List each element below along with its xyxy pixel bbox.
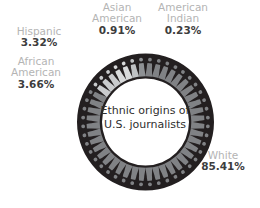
chart-center-title-line2: U.S. journalists — [86, 118, 204, 132]
slice-value-white: 85.41% — [190, 161, 256, 172]
chart-center-title-line1: Ethnic origins of — [86, 104, 204, 118]
slice-label-american-indian: American Indian 0.23% — [150, 2, 216, 36]
chart-canvas: Asian American 0.91% American Indian 0.2… — [0, 0, 260, 208]
slice-label-african-american: African American 3.66% — [0, 56, 72, 90]
slice-value-hispanic: 3.32% — [6, 37, 72, 48]
slice-value-asian-american: 0.91% — [86, 25, 148, 36]
slice-label-asian-american: Asian American 0.91% — [86, 2, 148, 36]
slice-label-american-indian-line2: Indian — [150, 13, 216, 24]
slice-label-african-american-line2: American — [0, 67, 72, 78]
slice-value-african-american: 3.66% — [0, 79, 72, 90]
slice-label-asian-american-line2: American — [86, 13, 148, 24]
slice-label-hispanic: Hispanic 3.32% — [6, 26, 72, 49]
slice-label-white: White 85.41% — [190, 150, 256, 173]
chart-center-title: Ethnic origins of U.S. journalists — [86, 104, 204, 132]
slice-value-american-indian: 0.23% — [150, 25, 216, 36]
